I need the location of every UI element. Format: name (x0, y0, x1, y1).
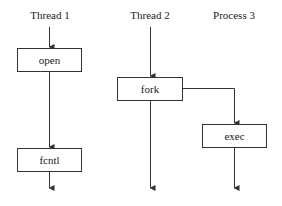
column-title-process3: Process 3 (213, 9, 255, 21)
column-title-thread1: Thread 1 (30, 9, 69, 21)
edge-fork-exec (182, 89, 235, 124)
node-fcntl: fcntl (17, 148, 82, 172)
diagram-connectors (0, 0, 282, 206)
node-fork: fork (117, 77, 183, 101)
node-open-label: open (39, 54, 60, 66)
node-fcntl-label: fcntl (39, 154, 59, 166)
column-title-thread2: Thread 2 (130, 9, 169, 21)
node-exec: exec (202, 124, 267, 148)
node-fork-label: fork (141, 83, 159, 95)
node-exec-label: exec (224, 130, 244, 142)
node-open: open (17, 48, 82, 72)
